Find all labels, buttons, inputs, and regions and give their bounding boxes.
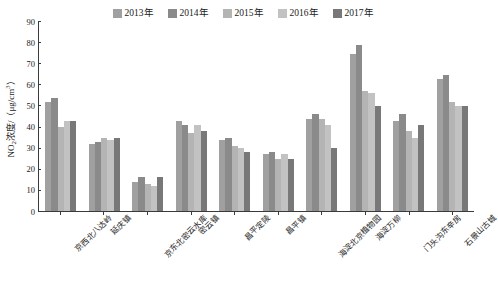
y-tick-mark bbox=[38, 21, 41, 22]
legend-item-label: 2015年 bbox=[235, 9, 264, 19]
bar-group bbox=[300, 22, 344, 211]
chart-legend: 2013年2014年2015年2016年2017年 bbox=[0, 0, 486, 22]
bar-group bbox=[170, 22, 214, 211]
legend-item: 2015年 bbox=[223, 9, 264, 19]
y-tick-label: 90 bbox=[27, 18, 36, 27]
legend-item-label: 2014年 bbox=[180, 9, 209, 19]
y-tick-mark bbox=[38, 105, 41, 106]
x-axis-category-label: 昌平定陵 bbox=[244, 214, 273, 243]
y-tick-mark bbox=[38, 127, 41, 128]
bar bbox=[418, 125, 424, 211]
legend-swatch-icon bbox=[168, 9, 177, 18]
bar bbox=[201, 131, 207, 211]
legend-swatch-icon bbox=[113, 9, 122, 18]
bar bbox=[462, 106, 468, 211]
x-axis-category-label: 石景山古城 bbox=[464, 214, 498, 248]
y-tick-mark bbox=[38, 169, 41, 170]
x-axis-category-label: 延庆镇 bbox=[110, 214, 133, 237]
bar bbox=[288, 159, 294, 212]
bar-group bbox=[431, 22, 475, 211]
y-tick-label: 0 bbox=[31, 208, 35, 217]
y-axis-tick-labels: 0102030405060708090 bbox=[18, 22, 38, 212]
bar-group bbox=[126, 22, 170, 211]
legend-item: 2014年 bbox=[168, 9, 209, 19]
bar bbox=[157, 177, 163, 211]
bar-group bbox=[344, 22, 388, 211]
bar bbox=[244, 152, 250, 211]
y-tick-label: 20 bbox=[27, 166, 36, 175]
legend-item-label: 2013年 bbox=[125, 9, 154, 19]
x-axis-category-label: 京东北密云水库 bbox=[163, 214, 209, 260]
axes bbox=[38, 22, 474, 212]
bar-group bbox=[213, 22, 257, 211]
y-tick-mark bbox=[38, 63, 41, 64]
legend-swatch-icon bbox=[278, 9, 287, 18]
y-axis-label: NO2浓度/（μg/cm3） bbox=[4, 62, 19, 172]
y-tick-label: 10 bbox=[27, 187, 36, 196]
legend-item-label: 2016年 bbox=[290, 9, 319, 19]
bar bbox=[375, 106, 381, 211]
y-tick-label: 40 bbox=[27, 123, 36, 132]
legend-item-label: 2017年 bbox=[345, 9, 374, 19]
y-axis-label-column: NO2浓度/（μg/cm3） bbox=[0, 22, 18, 212]
y-tick-label: 60 bbox=[27, 81, 36, 90]
legend-item: 2017年 bbox=[333, 9, 374, 19]
x-axis-category-label: 昌平镇 bbox=[285, 214, 308, 237]
bar-group bbox=[257, 22, 301, 211]
x-axis-category-label: 门头沟东辛房 bbox=[423, 214, 463, 254]
bar bbox=[114, 138, 120, 212]
y-tick-label: 70 bbox=[27, 60, 36, 69]
bar bbox=[70, 121, 76, 211]
x-axis-category-labels: 京西北八达岭延庆镇京东北密云水库密云镇昌平定陵昌平镇海淀北京植物园海淀万柳门头沟… bbox=[38, 212, 474, 286]
y-tick-mark bbox=[38, 190, 41, 191]
bars-layer bbox=[39, 22, 474, 211]
legend-item: 2016年 bbox=[278, 9, 319, 19]
y-tick-mark bbox=[38, 148, 41, 149]
y-tick-label: 80 bbox=[27, 39, 36, 48]
y-tick-mark bbox=[38, 84, 41, 85]
plot-area: NO2浓度/（μg/cm3） 0102030405060708090 bbox=[0, 22, 486, 212]
legend-swatch-icon bbox=[333, 9, 342, 18]
bar-group bbox=[387, 22, 431, 211]
bar-group bbox=[39, 22, 83, 211]
y-tick-mark bbox=[38, 42, 41, 43]
legend-swatch-icon bbox=[223, 9, 232, 18]
y-tick-label: 30 bbox=[27, 144, 36, 153]
legend-item: 2013年 bbox=[113, 9, 154, 19]
x-axis-category-label: 京西北八达岭 bbox=[74, 214, 114, 254]
y-tick-label: 50 bbox=[27, 102, 36, 111]
bar bbox=[331, 148, 337, 211]
bar-group bbox=[83, 22, 127, 211]
